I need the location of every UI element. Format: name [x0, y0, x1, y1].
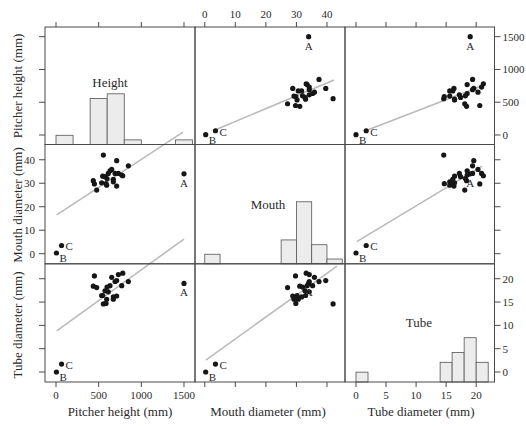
- data-point: [364, 243, 369, 248]
- y-tick-label-height: 1000: [503, 63, 526, 75]
- histogram-bar-tube: [356, 372, 368, 382]
- data-point: [304, 271, 309, 276]
- data-point: [59, 243, 64, 248]
- y-tick-label-tube: 20: [503, 273, 515, 285]
- data-point: [471, 158, 476, 163]
- data-point: [470, 77, 475, 82]
- data-point: [181, 171, 186, 176]
- data-point: [54, 250, 59, 255]
- point-label-c: C: [219, 126, 226, 138]
- data-point: [468, 34, 473, 39]
- data-point: [364, 128, 369, 133]
- panel-label-mouth: Mouth: [251, 197, 286, 212]
- data-point: [447, 93, 452, 98]
- point-label-b: B: [59, 252, 66, 264]
- data-point: [465, 82, 470, 87]
- data-point: [92, 273, 97, 278]
- x-tick-label-mouth: 20: [260, 8, 272, 20]
- data-point: [106, 289, 111, 294]
- data-point: [353, 132, 358, 137]
- data-point: [203, 132, 208, 137]
- x-tick-label-mouth: 40: [321, 8, 333, 20]
- point-label-c: C: [66, 240, 73, 252]
- data-point: [290, 86, 295, 91]
- point-label-b: B: [209, 134, 216, 146]
- data-point: [119, 283, 124, 288]
- y-tick-label-mouth: 40: [24, 154, 36, 166]
- point-label-c: C: [370, 126, 377, 138]
- y-axis-title-height: Pitcher height (mm): [10, 34, 25, 139]
- data-point: [103, 181, 108, 186]
- data-point: [475, 167, 480, 172]
- panel-label-height: Height: [92, 75, 128, 90]
- data-point: [330, 96, 335, 101]
- x-tick-label-height: 500: [90, 389, 107, 401]
- data-point: [120, 173, 125, 178]
- data-point: [481, 81, 486, 86]
- histogram-bar-height: [175, 140, 192, 145]
- histogram-bar-height: [90, 98, 107, 144]
- data-point: [462, 101, 467, 106]
- point-label-b: B: [59, 371, 66, 383]
- y-tick-label-height: 1500: [503, 31, 526, 43]
- data-point: [475, 90, 480, 95]
- point-label-a: A: [466, 177, 474, 189]
- x-tick-label-height: 0: [53, 389, 59, 401]
- y-tick-label-mouth: 30: [24, 177, 36, 189]
- data-point: [126, 279, 131, 284]
- data-point: [477, 181, 482, 186]
- y-axis-title-tube: Tube diameter (mm): [10, 271, 25, 378]
- data-point: [203, 369, 208, 374]
- data-point: [323, 86, 328, 91]
- data-point: [353, 250, 358, 255]
- point-label-a: A: [305, 40, 313, 52]
- data-point: [293, 94, 298, 99]
- data-point: [104, 285, 109, 290]
- data-point: [120, 271, 125, 276]
- data-point: [293, 273, 298, 278]
- data-point: [293, 103, 298, 108]
- y-tick-label-tube: 0: [503, 366, 509, 378]
- data-point: [92, 181, 97, 186]
- data-point: [100, 293, 105, 298]
- histogram-bar-height: [107, 94, 124, 145]
- point-label-c: C: [219, 359, 226, 371]
- data-point: [59, 361, 64, 366]
- point-label-b: B: [359, 252, 366, 264]
- data-point: [463, 93, 468, 98]
- x-axis-title-tube: Tube diameter (mm): [367, 404, 474, 419]
- data-point: [470, 163, 475, 168]
- histogram-bar-tube: [476, 362, 488, 382]
- histogram-bar-height: [124, 140, 141, 145]
- x-tick-label-tube: 10: [411, 389, 423, 401]
- data-point: [114, 158, 119, 163]
- y-tick-label-height: 0: [503, 129, 509, 141]
- data-point: [481, 173, 486, 178]
- y-tick-label-tube: 10: [503, 319, 515, 331]
- y-tick-label-tube: 5: [503, 343, 509, 355]
- y-tick-label-mouth: 20: [24, 201, 36, 213]
- data-point: [99, 180, 104, 185]
- data-point: [447, 179, 452, 184]
- point-label-c: C: [370, 240, 377, 252]
- data-point: [452, 174, 457, 179]
- y-tick-label-tube: 15: [503, 296, 515, 308]
- data-point: [109, 167, 114, 172]
- y-tick-label-height: 500: [503, 96, 520, 108]
- data-point: [101, 152, 106, 157]
- data-point: [54, 369, 59, 374]
- data-point: [285, 285, 290, 290]
- data-point: [442, 181, 447, 186]
- histogram-bar-height: [56, 135, 73, 144]
- data-point: [312, 275, 317, 280]
- x-axis-title-height: Pitcher height (mm): [68, 404, 173, 419]
- histogram-bar-mouth: [312, 245, 327, 264]
- data-point: [213, 128, 218, 133]
- data-point: [111, 179, 116, 184]
- data-point: [109, 275, 114, 280]
- x-tick-label-mouth: 10: [230, 8, 242, 20]
- data-point: [470, 87, 475, 92]
- regression-line-height-vs-mouth: [215, 80, 334, 130]
- data-point: [293, 301, 298, 306]
- data-point: [447, 88, 452, 93]
